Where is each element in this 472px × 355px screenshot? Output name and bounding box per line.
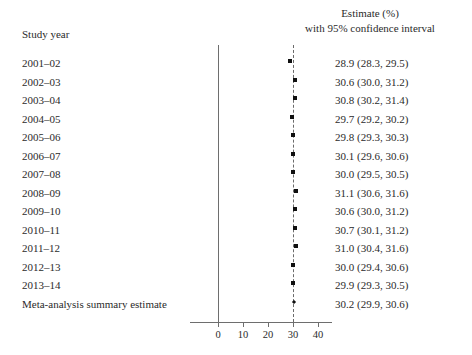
column-header-study-year: Study year [22, 28, 69, 40]
x-axis-tick-label-0: 0 [215, 329, 220, 340]
row-estimate-value: 30.8 (30.2, 31.4) [335, 94, 408, 106]
row-estimate-value: 29.9 (29.3, 30.5) [335, 279, 408, 291]
row-label: 2011–12 [22, 242, 60, 254]
row-label: 2010–11 [22, 224, 60, 236]
x-axis-tick-label-20: 20 [263, 329, 274, 340]
point-estimate-marker [291, 281, 295, 285]
row-estimate-value: 29.7 (29.2, 30.2) [335, 113, 408, 125]
row-label: 2008–09 [22, 187, 61, 199]
row-label: 2001–02 [22, 57, 61, 69]
row-estimate-value: 31.0 (30.4, 31.6) [335, 242, 408, 254]
point-estimate-marker [293, 207, 297, 211]
row-estimate-value: 28.9 (28.3, 29.5) [335, 57, 408, 69]
summary-diamond [291, 299, 295, 303]
row-label: 2003–04 [22, 94, 61, 106]
point-estimate-marker [293, 96, 297, 100]
x-axis-tick-20 [268, 322, 269, 327]
point-estimate-marker [294, 244, 298, 248]
row-label: 2002–03 [22, 76, 61, 88]
row-estimate-value: 30.6 (30.0, 31.2) [335, 205, 408, 217]
point-estimate-marker [293, 226, 297, 230]
row-label: 2009–10 [22, 205, 61, 217]
x-axis-tick-10 [243, 322, 244, 327]
row-estimate-value: 30.7 (30.1, 31.2) [335, 224, 408, 236]
point-estimate-marker [294, 189, 298, 193]
x-axis-line [190, 322, 332, 323]
x-axis-tick-0 [218, 322, 219, 327]
x-axis-tick-40 [318, 322, 319, 327]
row-label: 2006–07 [22, 150, 61, 162]
point-estimate-marker [291, 170, 295, 174]
x-axis-tick-30 [293, 322, 294, 327]
x-axis-tick-label-10: 10 [238, 329, 249, 340]
row-label: Meta-analysis summary estimate [22, 298, 167, 310]
column-header-estimate-line2: with 95% confidence interval [268, 21, 472, 36]
axis-vertical-line [218, 45, 219, 322]
column-header-estimate: Estimate (%) with 95% confidence interva… [268, 6, 472, 36]
row-label: 2005–06 [22, 131, 61, 143]
row-label: 2013–14 [22, 279, 61, 291]
row-estimate-value: 31.1 (30.6, 31.6) [335, 187, 408, 199]
point-estimate-marker [288, 59, 292, 63]
point-estimate-marker [291, 152, 295, 156]
point-estimate-marker [290, 115, 294, 119]
column-header-estimate-line1: Estimate (%) [268, 6, 472, 21]
x-axis-tick-label-30: 30 [288, 329, 299, 340]
row-label: 2007–08 [22, 168, 61, 180]
row-estimate-value: 30.0 (29.4, 30.6) [335, 261, 408, 273]
point-estimate-marker [291, 263, 295, 267]
row-estimate-value: 30.2 (29.9, 30.6) [335, 298, 408, 310]
point-estimate-marker [291, 133, 295, 137]
x-axis-tick-label-40: 40 [313, 329, 324, 340]
forest-plot: Study year Estimate (%) with 95% confide… [0, 0, 472, 355]
point-estimate-marker [293, 78, 297, 82]
row-label: 2012–13 [22, 261, 61, 273]
row-estimate-value: 30.0 (29.5, 30.5) [335, 168, 408, 180]
row-estimate-value: 29.8 (29.3, 30.3) [335, 131, 408, 143]
row-estimate-value: 30.6 (30.0, 31.2) [335, 76, 408, 88]
row-estimate-value: 30.1 (29.6, 30.6) [335, 150, 408, 162]
row-label: 2004–05 [22, 113, 61, 125]
